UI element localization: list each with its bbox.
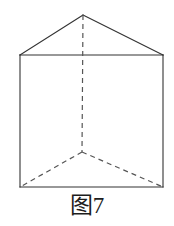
base-back-right-edge	[82, 152, 163, 187]
roof-left-edge	[20, 15, 83, 55]
back-vertical-edge	[82, 15, 83, 152]
roof-right-edge	[83, 15, 163, 55]
solid-edges-group	[20, 15, 163, 187]
base-back-left-edge	[20, 152, 82, 187]
figure-caption: 图7	[0, 192, 174, 220]
figure-container: 图7	[0, 0, 174, 226]
